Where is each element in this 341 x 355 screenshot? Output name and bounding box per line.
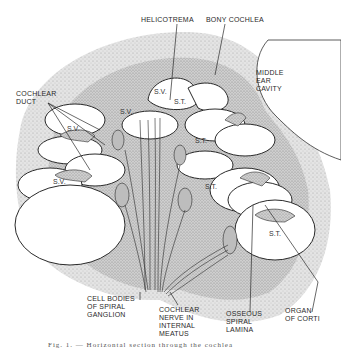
label-cell-bodies: CELL BODIES OF SPIRAL GANGLION — [87, 295, 135, 319]
cochlear-duct-line-2: DUCT — [16, 98, 57, 106]
label-sv-apex: S.V. — [154, 88, 167, 95]
label-st-apex: S.T. — [174, 98, 186, 105]
cochlear-nerve-line-4: MEATUS — [159, 330, 200, 338]
osseous-line-2: SPIRAL — [226, 318, 262, 326]
middle-ear-line-1: MIDDLE — [256, 69, 284, 77]
cochlear-nerve-line-1: COCHLEAR — [159, 306, 200, 314]
organ-line-1: ORGAN — [285, 307, 320, 315]
label-middle-ear-cavity: MIDDLE EAR CAVITY — [256, 69, 284, 93]
label-organ-of-corti: ORGAN OF CORTI — [285, 307, 320, 323]
cochlear-nerve-line-2: NERVE IN — [159, 314, 200, 322]
label-st-basal: S.T. — [269, 230, 281, 237]
label-sv-lower-left: S.V. — [53, 178, 66, 185]
label-helicotrema: HELICOTREMA — [141, 16, 194, 24]
label-st-middle-right: S.T. — [195, 137, 207, 144]
label-sv-left: S.V. — [67, 125, 80, 132]
label-cochlear-nerve: COCHLEAR NERVE IN INTERNAL MEATUS — [159, 306, 200, 338]
figure-caption: Fig. 1. — Horizontal section through the… — [48, 341, 233, 349]
label-sv-middle: S.V. — [120, 108, 133, 115]
cell-bodies-line-1: CELL BODIES — [87, 295, 135, 303]
cochlear-duct-line-1: COCHLEAR — [16, 90, 57, 98]
cochlea-diagram — [0, 0, 341, 355]
osseous-line-1: OSSEOUS — [226, 310, 262, 318]
osseous-line-3: LAMINA — [226, 326, 262, 334]
cell-bodies-line-2: OF SPIRAL — [87, 303, 135, 311]
label-cochlear-duct: COCHLEAR DUCT — [16, 90, 57, 106]
cell-bodies-line-3: GANGLION — [87, 311, 135, 319]
label-bony-cochlea: BONY COCHLEA — [206, 16, 264, 24]
middle-ear-line-2: EAR — [256, 77, 284, 85]
cochlear-nerve-line-3: INTERNAL — [159, 322, 200, 330]
middle-ear-line-3: CAVITY — [256, 85, 284, 93]
label-osseous-lamina: OSSEOUS SPIRAL LAMINA — [226, 310, 262, 334]
label-st-lower-middle: S.T. — [205, 183, 217, 190]
organ-line-2: OF CORTI — [285, 315, 320, 323]
